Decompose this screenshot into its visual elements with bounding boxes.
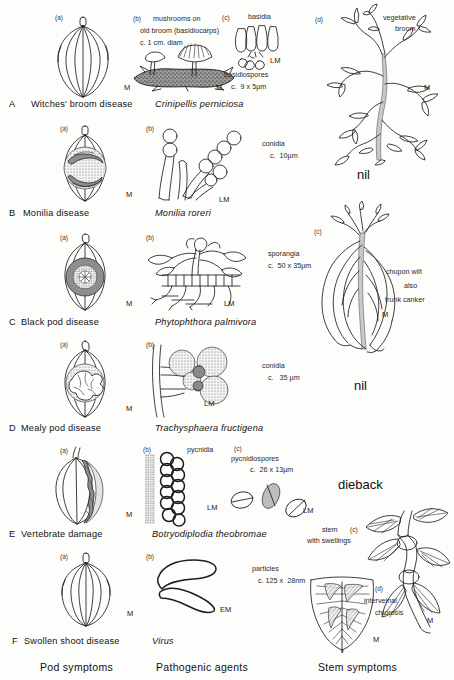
panel-tag-f-pod: (a): [60, 553, 68, 560]
caption-e-pycnidiospores: pycnidiospores: [231, 455, 279, 463]
row-agent-d: Trachysphaera fructigena: [155, 423, 263, 434]
caption-c-chupon-line1: chupon wilt: [386, 268, 422, 276]
magnification-c-c: M: [382, 311, 388, 320]
row-letter-b: B: [9, 208, 15, 219]
caption-f-stem-line2: with swellings: [307, 537, 351, 545]
caption-a-b-line1: mushrooms on: [153, 15, 201, 23]
caption-e-pycnidiospores-size: c. 26 x 13µm: [250, 466, 293, 474]
panel-tag-a-pod: (a): [55, 14, 63, 21]
caption-d-conidia: conidia: [262, 362, 285, 370]
pycnidia-illustration: [145, 452, 205, 527]
row-agent-c: Phytophthora palmivora: [155, 317, 256, 328]
magnification-b-b: LM: [219, 196, 229, 205]
caption-f-leaf-line2: chlorosis: [375, 609, 403, 617]
row-agent-e: Botryodiplodia theobromae: [152, 529, 267, 540]
magnification-f-d: M: [373, 636, 379, 645]
row-disease-d: Mealy pod disease: [21, 423, 101, 434]
caption-c-chupon-line3: trunk canker: [385, 296, 425, 304]
caption-f-particles-size: c. 125 x 28nm: [258, 577, 305, 585]
caption-b-conidia: conidia: [262, 140, 285, 148]
column-header-stem-symptoms: Stem symptoms: [318, 661, 397, 673]
row-letter-d: D: [9, 423, 16, 434]
row-disease-b: Monilia disease: [23, 208, 89, 219]
stem-note-e: dieback: [338, 478, 383, 493]
magnification-a-d: M: [424, 84, 430, 93]
magnification-c-pod: M: [126, 300, 132, 309]
magnification-f-b: EM: [220, 606, 231, 615]
panel-tag-b-pod: (a): [60, 125, 68, 132]
row-agent-f: Virus: [152, 636, 174, 647]
magnification-b-pod: M: [126, 191, 132, 200]
row-agent-a: Crinipellis perniciosa: [155, 99, 244, 110]
vegetative-broom-illustration: [325, 10, 440, 165]
pod-illustration-a: [46, 12, 120, 102]
caption-f-leaf-line1: interveinal: [364, 597, 397, 605]
caption-b-conidia-size: c. 10µm: [270, 152, 298, 160]
pod-illustration-c: [52, 232, 120, 314]
panel-tag-c-pod: (a): [60, 234, 68, 241]
figure-plate: (a) M mushrooms on old broom (basidiocar…: [0, 0, 454, 680]
panel-tag-a-c: (c): [222, 14, 230, 21]
stem-note-b: nil: [357, 168, 370, 183]
trachysphaera-conidia-illustration: [142, 345, 242, 417]
magnification-f-pod: M: [127, 610, 133, 619]
column-header-pod-symptoms: Pod symptoms: [40, 661, 113, 673]
row-letter-a: A: [9, 99, 15, 110]
chupon-wilt-illustration: [314, 205, 409, 355]
magnification-f-c: M: [427, 617, 433, 626]
panel-tag-a-b: (b): [133, 15, 141, 22]
panel-tag-d-pod: (a): [60, 341, 68, 348]
magnification-e-c: LM: [303, 507, 313, 516]
magnification-e-pod: M: [126, 511, 132, 520]
pod-illustration-d: [52, 339, 120, 421]
row-letter-c: C: [9, 317, 16, 328]
row-letter-f: F: [12, 636, 18, 647]
panel-tag-e-pod: (a): [60, 447, 68, 454]
caption-f-particles: particles: [252, 565, 279, 573]
row-agent-b: Monilia roreri: [155, 208, 211, 219]
stem-note-d: nil: [354, 379, 367, 394]
magnification-d-b: LM: [204, 400, 214, 409]
panel-tag-f-d: (d): [375, 585, 383, 592]
panel-tag-e-c: (c): [234, 445, 242, 452]
caption-a-c-basidiospores: basidiospores: [224, 71, 268, 79]
row-disease-f: Swollen shoot disease: [24, 636, 120, 647]
caption-c-sporangia: sporangia: [268, 250, 300, 258]
pod-illustration-f: [52, 551, 122, 629]
row-letter-e: E: [9, 529, 15, 540]
row-disease-c: Black pod disease: [21, 317, 99, 328]
magnification-a-c: LM: [270, 57, 280, 66]
caption-a-c-size: c. 9 x 5µm: [231, 83, 266, 91]
caption-a-b-line2: old broom (basidiocarps): [140, 27, 219, 35]
caption-f-stem-line1: stem: [322, 526, 338, 534]
panel-tag-a-d: (d): [315, 16, 323, 23]
pod-illustration-e: [46, 445, 118, 527]
pod-illustration-b: [52, 123, 120, 205]
caption-a-c-basidia: basidia: [248, 13, 271, 21]
column-header-pathogenic-agents: Pathogenic agents: [156, 661, 248, 673]
caption-c-chupon-line2: also: [404, 282, 417, 290]
magnification-d-pod: M: [126, 405, 132, 414]
caption-d-conidia-size: c. 35 µm: [268, 374, 300, 382]
magnification-e-b: LM: [207, 504, 217, 513]
caption-c-sporangia-size: c. 50 x 35µm: [268, 262, 311, 270]
conidia-chains-illustration: [148, 128, 248, 203]
magnification-c-b: LM: [224, 300, 234, 309]
row-disease-e: Vertebrate damage: [21, 529, 103, 540]
magnification-a-b: M: [216, 84, 222, 93]
pycnidiospores-illustration: [226, 478, 316, 523]
sporangia-on-leaf-illustration: [142, 238, 252, 310]
row-disease-a: Witches' broom disease: [31, 99, 133, 110]
